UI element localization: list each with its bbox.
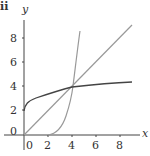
y-tick-label-6: 6 (10, 57, 17, 68)
y-tick-label-8: 8 (10, 33, 17, 44)
y-tick-label-2: 2 (10, 105, 17, 116)
x-tick-label-6: 6 (92, 140, 99, 151)
graph (0, 0, 150, 156)
x-tick-label-4: 4 (68, 140, 75, 151)
y-tick-label-4: 4 (10, 81, 17, 92)
x-tick-label-0: 0 (26, 140, 33, 151)
y-tick-label-0: 0 (10, 126, 17, 137)
x-tick-label-2: 2 (44, 140, 51, 151)
series-log (24, 82, 132, 111)
x-axis-label: x (142, 128, 148, 139)
y-axis-label: y (22, 4, 28, 15)
x-tick-label-8: 8 (116, 140, 123, 151)
